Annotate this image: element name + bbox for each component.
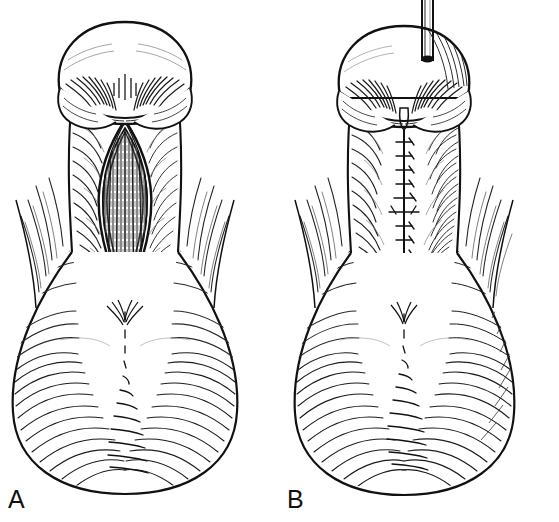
figure-canvas: A xyxy=(0,0,559,522)
catheter-meatus-entry xyxy=(421,56,434,63)
panel-a-label: A xyxy=(8,485,25,513)
scrotum-outline-b xyxy=(295,253,515,495)
panel-b-label: B xyxy=(287,485,304,513)
surgical-illustration-svg: A xyxy=(0,0,559,522)
